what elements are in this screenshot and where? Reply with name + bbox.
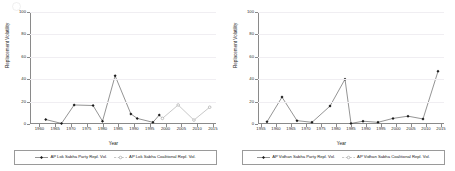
x-axis-tick-label: 1990 [129,127,138,131]
gridline [258,12,444,13]
legend-item[interactable]: AP Lok Sabha Party Repl. Vol. [35,155,107,160]
data-point-marker [119,156,122,159]
legend-label: AP Vidhan Sabha Party Repl. Vol. [272,155,335,159]
series-line-segment [351,121,363,123]
y-axis-tick [27,124,30,125]
legend-item[interactable]: AP Vidhan Sabha Coalitional Repl. Vol. [342,155,430,160]
data-point-marker [114,74,117,77]
legend-label: AP Vidhan Sabha Coalitional Repl. Vol. [357,155,430,159]
panel-vidhan-sabha: Replacement Volatility 02040608010019551… [228,0,455,171]
series-line-segment [178,105,194,120]
series-line-segment [312,106,330,122]
legend-left: AP Lok Sabha Party Repl. Vol.AP Lok Sabh… [14,150,217,165]
y-axis-tick [255,79,258,80]
data-point-marker [92,104,95,107]
panel-lok-sabha: Replacement Volatility 02040608010019601… [0,0,227,171]
gridline [30,12,216,13]
legend-item[interactable]: AP Vidhan Sabha Party Repl. Vol. [257,155,335,160]
series-line-segment [131,114,137,118]
data-point-marker [422,117,425,120]
legend-label: AP Lok Sabha Coalitional Repl. Vol. [129,155,196,159]
x-axis-tick-label: 2000 [161,127,170,131]
y-axis-tick [27,102,30,103]
legend-diamond-icon [257,155,270,160]
y-axis-tick [255,102,258,103]
data-point-marker [281,96,284,99]
x-axis-tick-label: 1985 [114,127,123,131]
x-axis-tick-label: 1960 [271,127,280,131]
series-line-segment [408,116,423,119]
series-line-segment [103,76,116,121]
data-point-marker [208,106,211,109]
x-axis-tick-label: 2015 [208,127,217,131]
series-line-segment [74,105,93,106]
data-point-marker [101,120,104,123]
y-axis-tick-label: 20 [21,99,26,103]
y-axis-tick [255,57,258,58]
data-point-marker [73,103,76,106]
plot-area-left: 0204060801001960196519701975198019851990… [30,12,216,124]
data-point-marker [60,122,63,125]
data-point-marker [177,104,180,107]
data-point-marker [161,117,164,120]
series-group-left [30,12,216,124]
x-axis-tick-label: 1980 [331,127,340,131]
data-point-marker [347,156,350,159]
series-line-segment [297,121,312,123]
legend-circle-icon [114,155,127,160]
x-axis-tick-label: 2005 [406,127,415,131]
gridline [258,34,444,35]
data-point-marker [266,120,269,123]
data-point-marker [407,115,410,118]
x-axis-tick-label: 1980 [98,127,107,131]
data-point-marker [362,120,365,123]
y-axis-tick [27,57,30,58]
data-point-marker [296,119,299,122]
data-point-marker [193,119,196,122]
gridline [30,57,216,58]
y-axis-tick-label: 60 [249,55,254,59]
x-axis-title-right: Year [228,142,455,147]
series-line-segment [194,107,210,120]
x-axis-title-left: Year [0,142,227,147]
y-axis-tick-label: 0 [24,122,26,126]
data-point-marker [392,117,395,120]
y-axis-title-right: Replacement Volatility [234,23,239,68]
legend-diamond-icon [35,155,48,160]
y-axis-tick-label: 80 [21,32,26,36]
legend-right: AP Vidhan Sabha Party Repl. Vol.AP Vidha… [242,150,445,165]
y-axis-tick-label: 0 [252,122,254,126]
y-axis-tick [27,34,30,35]
gridline [258,79,444,80]
x-axis-tick-label: 2015 [436,127,445,131]
series-line-segment [93,106,102,122]
figure-two-panel-line-charts: Replacement Volatility 02040608010019601… [0,0,455,171]
x-axis-tick-label: 1970 [301,127,310,131]
legend-item[interactable]: AP Lok Sabha Coalitional Repl. Vol. [114,155,196,160]
x-axis-tick-label: 2010 [421,127,430,131]
series-line-segment [363,121,378,122]
series-line-segment [153,115,159,122]
x-axis-tick-label: 1995 [145,127,154,131]
data-point-marker [40,156,43,159]
x-axis-tick-label: 1965 [286,127,295,131]
x-axis-tick-label: 1965 [51,127,60,131]
series-line-segment [137,118,153,122]
series-line-segment [62,105,75,123]
y-axis-tick-label: 40 [21,77,26,81]
y-axis-tick [255,124,258,125]
y-axis-tick-label: 100 [19,10,26,14]
legend-circle-icon [342,155,355,160]
data-point-marker [437,70,440,73]
y-axis-tick-label: 80 [249,32,254,36]
series-line-segment [393,116,408,118]
gridline [30,79,216,80]
y-axis-tick-label: 40 [249,77,254,81]
y-axis-tick [27,79,30,80]
x-axis-tick-label: 2010 [192,127,201,131]
y-axis-tick-label: 100 [247,10,254,14]
gridline [30,102,216,103]
data-point-marker [44,118,47,121]
x-axis-tick-label: 1975 [82,127,91,131]
gridline [30,34,216,35]
